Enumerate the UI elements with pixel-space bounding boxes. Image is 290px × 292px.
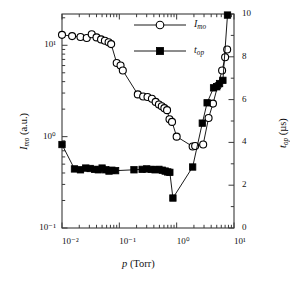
x-axis-label: p (Torr) bbox=[122, 258, 155, 269]
y-axis-label: Imo (a.u.) bbox=[18, 113, 31, 150]
figure-container: 10⁻² 10⁻¹ 10⁰ 10¹ 10⁻¹ 10⁰ 10¹ 0 2 4 6 8… bbox=[0, 0, 290, 292]
y2-tick-label: 2 bbox=[242, 179, 247, 189]
legend-label-imo: Imo bbox=[194, 18, 206, 31]
y-tick-label: 10⁻¹ bbox=[39, 222, 56, 232]
y-tick-label: 10⁰ bbox=[43, 131, 56, 141]
legend-label-top: top bbox=[194, 44, 204, 57]
y-tick-label: 10¹ bbox=[44, 39, 56, 49]
y2-tick-label: 6 bbox=[242, 94, 247, 104]
y2-tick-label: 0 bbox=[242, 222, 247, 232]
y2-tick-label: 8 bbox=[242, 51, 247, 61]
data-series-group bbox=[59, 12, 231, 201]
legend-symbols bbox=[134, 21, 186, 54]
y2-tick-label: 4 bbox=[242, 136, 247, 146]
y2-tick-label: 10 bbox=[242, 8, 251, 18]
y2-axis-label: top (µs) bbox=[277, 118, 290, 148]
